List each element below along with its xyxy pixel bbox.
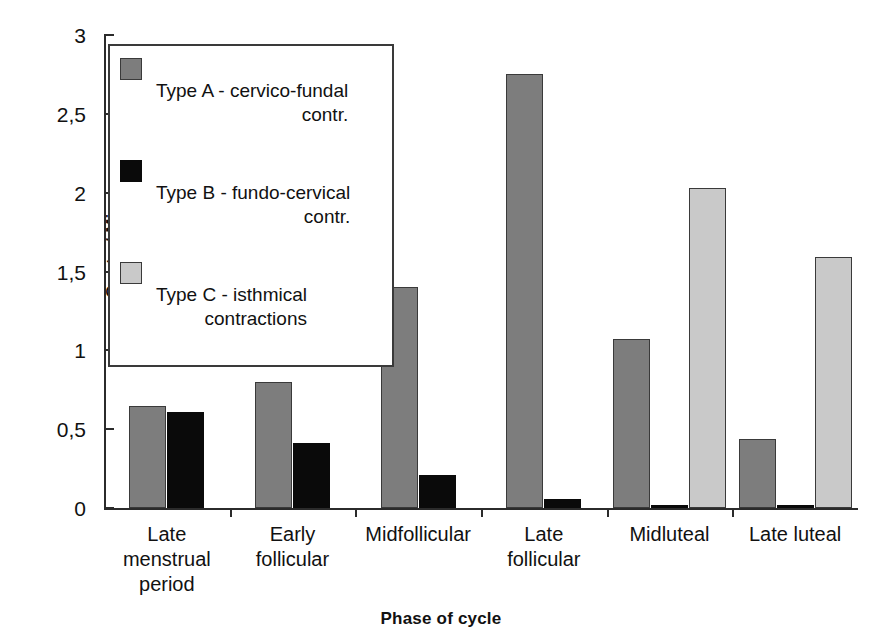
x-tick-mark — [607, 508, 609, 517]
y-tick-label: 0,5 — [32, 419, 86, 440]
bar-type-c — [689, 188, 726, 508]
legend-item-type-b: Type B - fundo-cervical contr. — [120, 157, 384, 253]
bar-type-c — [815, 257, 852, 508]
legend-item-type-c: Type C - isthmical contractions — [120, 259, 384, 355]
bar-type-a — [129, 406, 166, 508]
legend-label-type-b: Type B - fundo-cervical contr. — [156, 157, 350, 253]
bar-type-a — [506, 74, 543, 508]
x-category-label: Latemenstrualperiod — [104, 522, 230, 597]
x-category-label: Latefollicular — [481, 522, 607, 572]
bar-type-b — [777, 505, 814, 508]
legend-item-type-a: Type A - cervico-fundal contr. — [120, 55, 384, 151]
bar-type-b — [544, 499, 581, 508]
legend: Type A - cervico-fundal contr. Type B - … — [108, 44, 394, 367]
legend-label-type-a: Type A - cervico-fundal contr. — [156, 55, 348, 151]
bar-type-b — [167, 412, 204, 508]
x-category-label: Late luteal — [732, 522, 858, 547]
bar-type-b — [651, 505, 688, 508]
bar-type-a — [739, 439, 776, 508]
y-tick-label: 2,5 — [32, 103, 86, 124]
x-tick-mark — [732, 508, 734, 517]
y-axis-line — [104, 34, 106, 510]
y-tick-label: 0 — [32, 498, 86, 519]
bar-chart: Contr. / Min. 00,511,522,53 Latemenstrua… — [0, 0, 882, 641]
legend-swatch-type-b-icon — [120, 160, 142, 182]
y-tick-label: 2 — [32, 182, 86, 203]
y-tick-label: 1,5 — [32, 261, 86, 282]
x-category-label: Midfollicular — [355, 522, 481, 547]
y-tick-label: 1 — [32, 340, 86, 361]
x-category-label: Midluteal — [607, 522, 733, 547]
legend-label-type-c: Type C - isthmical contractions — [156, 259, 307, 355]
bar-type-b — [419, 475, 456, 508]
legend-swatch-type-c-icon — [120, 262, 142, 284]
bar-type-b — [293, 443, 330, 508]
x-tick-mark — [230, 508, 232, 517]
y-tick-label: 3 — [32, 25, 86, 46]
bar-type-a — [255, 382, 292, 508]
x-tick-mark — [355, 508, 357, 517]
x-tick-mark — [481, 508, 483, 517]
x-axis-title: Phase of cycle — [0, 609, 882, 629]
bar-type-a — [613, 339, 650, 508]
x-category-label: Earlyfollicular — [230, 522, 356, 572]
legend-swatch-type-a-icon — [120, 58, 142, 80]
